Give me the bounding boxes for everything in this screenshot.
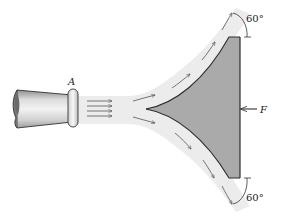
nozzle — [13, 89, 78, 128]
label-angle-bottom: 60° — [246, 192, 264, 203]
label-angle-top: 60° — [246, 13, 264, 24]
nozzle-rim — [68, 89, 78, 127]
label-nozzle-a: A — [67, 76, 75, 87]
nozzle-body — [17, 90, 72, 128]
jet-vane-diagram: A F 60° 60° — [0, 0, 300, 219]
label-force-f: F — [259, 104, 268, 115]
